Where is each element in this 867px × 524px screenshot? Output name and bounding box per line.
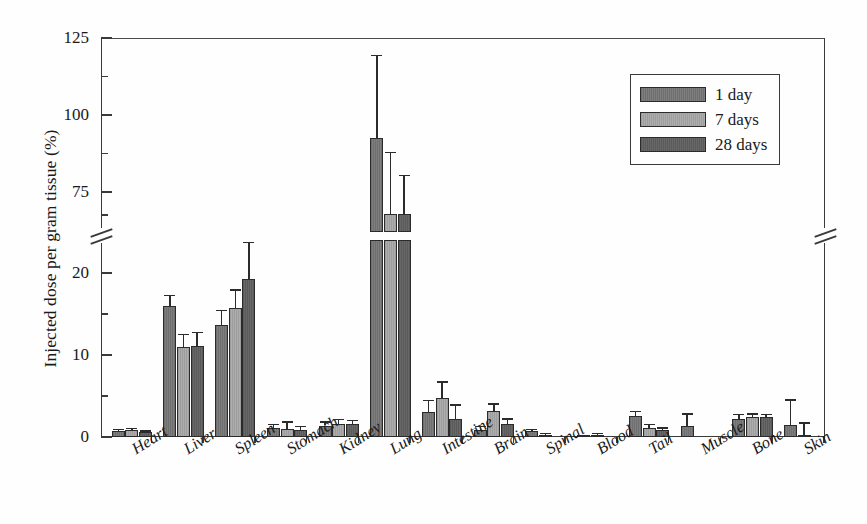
error-bar-cap (126, 428, 137, 429)
legend-swatch (640, 112, 706, 127)
legend-swatch (640, 87, 706, 102)
error-bar-stem (428, 400, 429, 412)
error-bar-cap (785, 399, 796, 400)
error-bar-cap (733, 414, 744, 415)
error-bar-cap (630, 411, 641, 412)
error-bar-cap (320, 421, 331, 422)
legend-label: 7 days (715, 111, 759, 128)
y-tick-minor (101, 395, 108, 397)
error-bar-stem (196, 332, 197, 346)
chart-legend: 1 day7 days28 days (630, 74, 780, 165)
error-bar-cap (578, 435, 589, 436)
error-bar-cap (140, 430, 151, 431)
y-tick-major (101, 191, 112, 193)
y-tick-major (101, 114, 112, 116)
error-bar-cap (502, 418, 513, 419)
error-bar-cap (385, 152, 396, 153)
error-bar-cap (747, 413, 758, 414)
error-bar-cap (657, 427, 668, 428)
bar-lower-segment (398, 240, 411, 437)
y-tick-major (101, 354, 112, 356)
bar-chart-figure: Injected dose per gram tissue (%) 010207… (0, 0, 867, 524)
error-bar-stem (221, 310, 222, 325)
error-bar-cap (592, 433, 603, 434)
bar (112, 431, 125, 437)
error-bar-stem (376, 55, 377, 138)
error-bar-stem (803, 422, 804, 434)
error-bar-cap (799, 422, 810, 423)
y-tick-minor (101, 313, 108, 315)
error-bar-cap (216, 310, 227, 311)
error-bar-cap (268, 424, 279, 425)
y-tick-minor (101, 153, 108, 155)
y-tick-minor (101, 214, 108, 216)
bar-upper-segment (370, 138, 383, 232)
error-bar-cap (164, 295, 175, 296)
y-tick-label: 10 (43, 346, 89, 363)
bar (681, 426, 694, 437)
error-bar-stem (248, 242, 249, 279)
error-bar-cap (488, 403, 499, 404)
y-axis-tick-labels: 0102075100125 (43, 0, 89, 524)
bar (422, 412, 435, 437)
legend-item-7-days: 7 days (640, 107, 767, 132)
y-tick-major (101, 272, 112, 274)
y-tick-label: 100 (43, 106, 89, 123)
error-bar-cap (282, 421, 293, 422)
error-bar-cap (333, 419, 344, 420)
error-bar-cap (423, 400, 434, 401)
error-bar-stem (183, 334, 184, 347)
error-bar-stem (169, 295, 170, 306)
y-tick-label: 125 (43, 29, 89, 46)
legend-swatch (640, 137, 706, 152)
bar (436, 398, 449, 437)
error-bar-cap (347, 420, 358, 421)
bar-lower-segment (370, 240, 383, 437)
legend-item-28-days: 28 days (640, 132, 767, 157)
bar-lower-segment (384, 240, 397, 437)
error-bar-cap (450, 404, 461, 405)
error-bar-cap (178, 334, 189, 335)
bar-upper-segment (398, 214, 411, 232)
error-bar-cap (644, 424, 655, 425)
y-tick-label: 0 (43, 428, 89, 445)
error-bar-stem (686, 413, 687, 425)
error-bar-cap (682, 413, 693, 414)
error-bar-cap (243, 242, 254, 243)
error-bar-stem (403, 175, 404, 213)
y-tick-major (101, 37, 112, 39)
bar (242, 279, 255, 437)
legend-label: 28 days (715, 136, 767, 153)
bar (163, 306, 176, 437)
error-bar-cap (371, 55, 382, 56)
error-bar-cap (192, 332, 203, 333)
legend-label: 1 day (715, 86, 752, 103)
error-bar-stem (790, 399, 791, 424)
y-tick-label: 75 (43, 183, 89, 200)
error-bar-cap (761, 414, 772, 415)
bar (229, 308, 242, 437)
y-tick-major (101, 436, 112, 438)
error-bar-cap (437, 381, 448, 382)
error-bar-cap (399, 175, 410, 176)
error-bar-cap (526, 429, 537, 430)
legend-item-1-day: 1 day (640, 82, 767, 107)
bar (784, 425, 797, 437)
error-bar-cap (295, 426, 306, 427)
y-tick-label: 20 (43, 264, 89, 281)
bar (215, 325, 228, 437)
bar (746, 417, 759, 437)
bar (177, 347, 190, 437)
y-tick-minor (101, 76, 108, 78)
error-bar-stem (235, 289, 236, 308)
error-bar-cap (540, 433, 551, 434)
bar-upper-segment (384, 214, 397, 232)
error-bar-cap (475, 426, 486, 427)
error-bar-stem (390, 152, 391, 214)
bar (191, 346, 204, 437)
error-bar-cap (230, 289, 241, 290)
error-bar-stem (455, 404, 456, 419)
error-bar-cap (113, 429, 124, 430)
error-bar-stem (441, 381, 442, 397)
